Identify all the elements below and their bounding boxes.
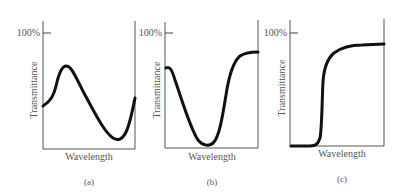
panel-a: 100% Transmittance Wavelength (a) [17,21,135,187]
panel-b-100-label: 100% [139,27,162,38]
panel-b-ylabel: Transmittance [151,61,162,118]
panel-c-curve [291,44,384,146]
panel-a-100-label: 100% [17,27,40,38]
panel-a-xlabel: Wavelength [65,151,113,162]
panel-c-xlabel: Wavelength [318,148,366,159]
panel-c-frame [290,19,384,146]
transmittance-figure: 100% Transmittance Wavelength (a) 100% T… [0,0,398,196]
panel-a-caption: (a) [84,177,94,187]
panel-c-caption: (c) [337,174,347,184]
panel-b-xlabel: Wavelength [188,151,236,162]
panel-c: 100% Transmittance Wavelength (c) [264,19,384,184]
panel-b-frame [165,20,258,148]
panel-c-100-label: 100% [264,27,287,38]
panel-c-ylabel: Transmittance [276,59,287,116]
panel-b-curve [166,52,258,145]
panel-b: 100% Transmittance Wavelength (b) [139,20,258,187]
panel-a-curve [43,66,135,140]
panel-a-ylabel: Transmittance [28,61,39,118]
panel-b-caption: (b) [207,177,218,187]
